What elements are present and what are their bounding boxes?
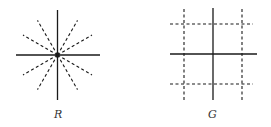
r-center-dot	[56, 53, 60, 57]
diagram-canvas: R G	[0, 0, 271, 127]
r-label: R	[53, 108, 62, 121]
figure-r	[16, 10, 100, 100]
g-label: G	[208, 108, 217, 121]
figure-g	[170, 8, 257, 100]
